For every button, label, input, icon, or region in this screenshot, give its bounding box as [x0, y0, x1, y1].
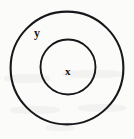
- outer-set-label: y: [34, 27, 40, 39]
- venn-diagram-canvas: y x: [0, 0, 134, 139]
- inner-set-label: x: [65, 66, 71, 77]
